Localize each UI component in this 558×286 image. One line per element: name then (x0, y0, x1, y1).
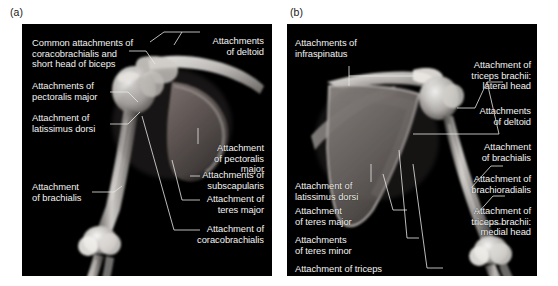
label-attachments-of-pectoralis-major: Attachments of pectoralis major (32, 81, 144, 102)
label-attachments-of-deltoid: Attachments of deltoid (433, 106, 531, 127)
label-attachment-of-latissimus-dorsi: Attachment of latissimus dorsi (295, 181, 411, 202)
label-attachment-of-teres-major: Attachment of teres major (154, 194, 264, 215)
label-attachments-of-deltoid: Attachments of deltoid (168, 36, 264, 57)
panel-b-letter: (b) (290, 6, 303, 18)
label-attachments-of-subscapularis: Attachments of subscapularis (154, 170, 264, 191)
label-attachment-of-brachioradialis: Attachment of brachioradialis (421, 174, 531, 195)
label-attachments-of-infraspinatus: Attachments of infraspinatus (295, 38, 411, 59)
label-attachment-of-teres-major: Attachment of teres major (295, 206, 407, 227)
label-attachment-of-brachialis: Attachment of brachialis (32, 182, 132, 203)
label-attachment-of-brachialis: Attachment of brachialis (433, 142, 531, 163)
label-attachments-of-teres-minor: Attachments of teres minor (295, 235, 407, 256)
label-common-attachments-coracobrachialis-biceps: Common attachments of coracobrachialis a… (32, 38, 162, 70)
panel-a-letter: (a) (10, 6, 23, 18)
panel-b-posterior-view: Attachments of infraspinatus Attachment … (287, 24, 537, 276)
panel-a-anterior-view: Common attachments of coracobrachialis a… (22, 24, 272, 276)
label-attachment-of-latissimus-dorsi: Attachment of latissimus dorsi (32, 113, 144, 134)
label-attachment-of-triceps-brachii-lateral-head: Attachment of triceps brachii: lateral h… (421, 60, 531, 92)
label-attachment-of-triceps-brachii-long-head: Attachment of triceps brachii: long head (295, 264, 431, 276)
label-attachment-of-coracobrachialis: Attachment of coracobrachialis (144, 224, 264, 245)
label-attachment-of-triceps-brachii-medial-head: Attachment of triceps brachii: medial he… (421, 206, 531, 238)
anatomy-figure: (a) (0, 0, 558, 286)
